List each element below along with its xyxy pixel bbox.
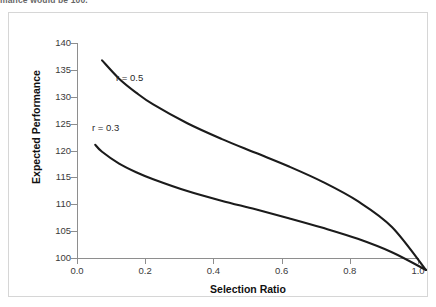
- line-series-r-0-5: [102, 60, 426, 270]
- figure-caption-clipped: mance would be 100.: [0, 0, 436, 6]
- chart-curves: [9, 13, 436, 307]
- series-annotation-r-0-5: r = 0.5: [116, 73, 143, 83]
- caption-text: mance would be 100.: [0, 0, 436, 6]
- series-annotation-r-0-3: r = 0.3: [92, 123, 119, 133]
- line-series-r-0-3: [95, 145, 426, 270]
- figure-frame: 100105110115120125130135140 0.00.20.40.6…: [8, 12, 428, 297]
